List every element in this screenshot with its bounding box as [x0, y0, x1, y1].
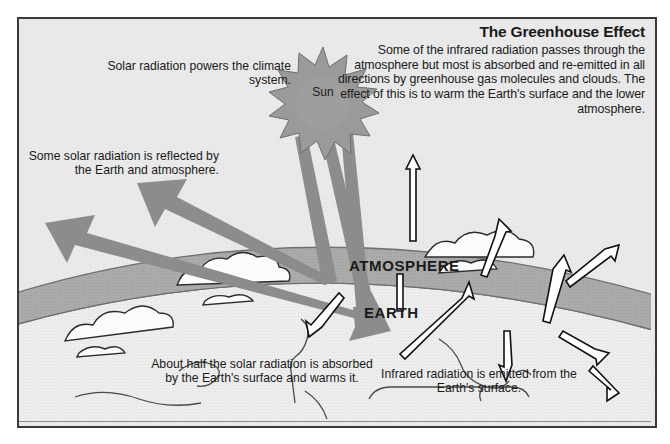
annotation-solar-powers: Solar radiation powers the climate syste… — [91, 59, 291, 88]
atmosphere-label: ATMOSPHERE — [349, 257, 460, 275]
page-title: The Greenhouse Effect — [480, 23, 645, 41]
annotation-reflected: Some solar radiation is reflected by the… — [19, 149, 219, 178]
greenhouse-effect-diagram: The Greenhouse Effect Some of the infrar… — [0, 0, 670, 444]
annotation-emitted: Infrared radiation is emitted from the E… — [374, 367, 584, 396]
diagram-frame: The Greenhouse Effect Some of the infrar… — [17, 17, 657, 428]
earth-label: EARTH — [364, 304, 419, 322]
annotation-absorbed: About half the solar radiation is absorb… — [147, 357, 377, 386]
intro-paragraph: Some of the infrared radiation passes th… — [315, 43, 645, 116]
sun-label: Sun — [299, 85, 347, 99]
